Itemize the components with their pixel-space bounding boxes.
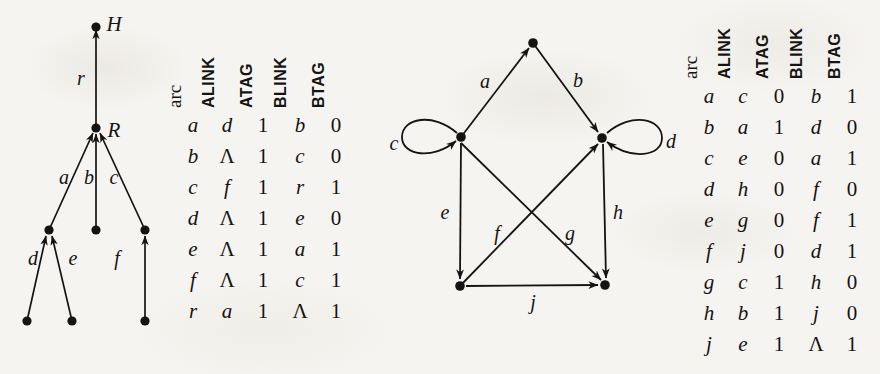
cell-btag: 0	[320, 203, 352, 234]
cell-atag: 1	[762, 298, 796, 329]
table-row: a c 0 b 1	[694, 81, 868, 112]
graph-edge-c-self-loop	[402, 120, 457, 154]
tree-node-n3	[140, 225, 149, 234]
cell-arc: r	[178, 296, 208, 327]
cell-atag: 1	[762, 329, 796, 360]
cell-btag: 0	[836, 267, 868, 298]
tree-arc-label-b: b	[84, 167, 94, 187]
cell-arc: c	[178, 172, 208, 203]
table-row: b a 1 d 0	[694, 112, 868, 143]
cell-alink: c	[724, 81, 762, 112]
cell-blink: c	[280, 265, 320, 296]
cell-alink: c	[724, 267, 762, 298]
tree-edge-c	[100, 133, 145, 230]
cell-alink: Λ	[208, 141, 246, 172]
cell-btag: 0	[836, 174, 868, 205]
graph-edge-h	[603, 144, 606, 278]
cell-btag: 1	[836, 143, 868, 174]
arc-table-graph-header: arc ALINK ATAG BLINK BTAG	[694, 5, 868, 79]
graph-arc-label-c: c	[390, 133, 399, 153]
tree-node-n5	[67, 316, 76, 325]
cell-arc: g	[694, 267, 724, 298]
table-row: j e 1 Λ 1	[694, 329, 868, 360]
cell-blink: f	[796, 174, 836, 205]
tree-node-H	[91, 22, 100, 31]
header-alink: ALINK	[200, 57, 218, 108]
cell-blink: a	[796, 143, 836, 174]
table-row: d Λ 1 e 0	[178, 203, 352, 234]
table-row: f Λ 1 c 1	[178, 265, 352, 296]
graph-arc-label-b: b	[573, 70, 583, 90]
cell-btag: 1	[836, 81, 868, 112]
header-btag: BTAG	[826, 33, 844, 79]
cell-btag: 0	[320, 110, 352, 141]
header-arc: arc	[164, 85, 186, 108]
table-row: c f 1 r 1	[178, 172, 352, 203]
cell-blink: Λ	[280, 296, 320, 327]
table-row: r a 1 Λ 1	[178, 296, 352, 327]
tree-node-label-R: R	[108, 120, 121, 141]
cell-btag: 1	[320, 234, 352, 265]
graph-node-left	[456, 132, 466, 142]
graph-edge-f	[460, 144, 598, 286]
table-row: g c 1 h 0	[694, 267, 868, 298]
cell-alink: Λ	[208, 234, 246, 265]
arc-table-tree-header: arc ALINK ATAG BLINK BTAG	[178, 12, 352, 108]
tree-node-n4	[22, 316, 31, 325]
table-row: h b 1 j 0	[694, 298, 868, 329]
graph-svg	[370, 0, 680, 374]
cell-btag: 0	[836, 112, 868, 143]
cell-alink: Λ	[208, 265, 246, 296]
cell-btag: 0	[836, 298, 868, 329]
cell-alink: a	[208, 296, 246, 327]
cell-alink: d	[208, 110, 246, 141]
tree-node-R	[91, 123, 100, 132]
cell-alink: h	[724, 174, 762, 205]
tree-arc-label-f: f	[114, 248, 120, 268]
cell-arc: j	[694, 329, 724, 360]
graph-node-right	[597, 133, 607, 143]
arc-table-tree-body: a d 1 b 0 b Λ 1 c 0 c f 1 r	[178, 110, 352, 327]
cell-atag: 0	[762, 174, 796, 205]
tree-arc-label-a: a	[59, 167, 69, 187]
cell-arc: b	[694, 112, 724, 143]
cell-arc: f	[694, 236, 724, 267]
graph-node-bottom-left	[455, 281, 465, 291]
arc-table-graph-body: a c 0 b 1 b a 1 d 0 c e 0 a	[694, 81, 868, 360]
graph-edge-d-self-loop	[607, 120, 662, 154]
table-row: f j 0 d 1	[694, 236, 868, 267]
tree-arc-label-d: d	[28, 248, 38, 268]
cell-blink: d	[796, 112, 836, 143]
tree-node-label-H: H	[106, 14, 121, 35]
cell-alink: g	[724, 205, 762, 236]
cell-arc: b	[178, 141, 208, 172]
cell-btag: 1	[320, 296, 352, 327]
cell-alink: e	[724, 143, 762, 174]
graph-arc-label-e: e	[441, 202, 450, 222]
cell-arc: c	[694, 143, 724, 174]
cell-alink: Λ	[208, 203, 246, 234]
cell-atag: 0	[762, 143, 796, 174]
rooted-tree-diagram: H R r a b c d e f	[0, 0, 185, 374]
header-blink: BLINK	[788, 28, 806, 79]
graph-arc-label-j: j	[530, 292, 536, 312]
cell-alink: a	[724, 112, 762, 143]
cell-btag: 1	[836, 236, 868, 267]
header-btag: BTAG	[310, 62, 328, 108]
tree-node-n6	[140, 316, 149, 325]
graph-arc-label-h: h	[613, 202, 623, 222]
cell-blink: j	[796, 298, 836, 329]
graph-arc-label-f: f	[494, 223, 500, 243]
header-atag: ATAG	[238, 63, 256, 108]
figure-page: H R r a b c d e f arc ALINK ATAG BLINK B…	[0, 0, 880, 374]
cell-arc: a	[178, 110, 208, 141]
cell-blink: a	[280, 234, 320, 265]
graph-node-top	[528, 38, 538, 48]
cell-atag: 1	[246, 296, 280, 327]
cell-btag: 1	[836, 329, 868, 360]
cell-atag: 0	[762, 236, 796, 267]
cell-atag: 1	[246, 172, 280, 203]
cell-arc: e	[178, 234, 208, 265]
table-row: b Λ 1 c 0	[178, 141, 352, 172]
table-row: c e 0 a 1	[694, 143, 868, 174]
